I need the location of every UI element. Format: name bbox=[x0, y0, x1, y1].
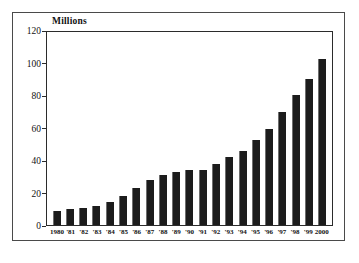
bar-column bbox=[156, 32, 169, 225]
bar-91 bbox=[199, 170, 207, 225]
bar-2000 bbox=[318, 59, 326, 225]
x-tick-label: '94 bbox=[236, 228, 249, 236]
bar-98 bbox=[292, 95, 300, 225]
bar-series bbox=[47, 32, 332, 225]
y-tick-label: 40 bbox=[32, 156, 47, 166]
x-tick-label: '97 bbox=[275, 228, 288, 236]
y-axis-units-label: Millions bbox=[52, 16, 87, 26]
x-tick-label: '84 bbox=[104, 228, 117, 236]
bar-96 bbox=[265, 129, 273, 226]
bar-column bbox=[103, 32, 116, 225]
bar-84 bbox=[106, 202, 114, 225]
bar-95 bbox=[252, 140, 260, 225]
bar-column bbox=[143, 32, 156, 225]
x-tick-label: '96 bbox=[262, 228, 275, 236]
x-tick-label: '85 bbox=[117, 228, 130, 236]
bar-1980 bbox=[53, 211, 61, 225]
x-tick-label: '89 bbox=[170, 228, 183, 236]
x-tick-label: '95 bbox=[249, 228, 262, 236]
bar-94 bbox=[239, 151, 247, 225]
bar-86 bbox=[132, 188, 140, 225]
y-tick-label: 100 bbox=[27, 59, 46, 69]
x-tick-label: '98 bbox=[288, 228, 301, 236]
bar-column bbox=[302, 32, 315, 225]
bar-83 bbox=[92, 206, 100, 225]
x-tick-label: '82 bbox=[77, 228, 90, 236]
bar-82 bbox=[79, 208, 87, 225]
y-tick-label: 120 bbox=[27, 26, 46, 36]
bar-column bbox=[223, 32, 236, 225]
x-tick-label: '87 bbox=[143, 228, 156, 236]
bar-column bbox=[196, 32, 209, 225]
bar-column bbox=[263, 32, 276, 225]
x-tick-label: 2000 bbox=[315, 228, 329, 236]
bar-92 bbox=[212, 164, 220, 225]
bar-column bbox=[130, 32, 143, 225]
bar-column bbox=[63, 32, 76, 225]
bar-column bbox=[249, 32, 262, 225]
bar-column bbox=[170, 32, 183, 225]
bar-93 bbox=[225, 157, 233, 225]
bar-85 bbox=[119, 196, 127, 225]
bar-column bbox=[77, 32, 90, 225]
y-tick-label: 80 bbox=[32, 91, 47, 101]
x-tick-label: '92 bbox=[209, 228, 222, 236]
bar-87 bbox=[146, 180, 154, 225]
x-tick-label: '93 bbox=[222, 228, 235, 236]
bar-column bbox=[116, 32, 129, 225]
x-tick-label: '86 bbox=[130, 228, 143, 236]
bar-column bbox=[209, 32, 222, 225]
y-tick-label: 20 bbox=[32, 189, 47, 199]
x-tick-label: '91 bbox=[196, 228, 209, 236]
bar-column bbox=[289, 32, 302, 225]
y-tick-label: 60 bbox=[32, 124, 47, 134]
x-axis-labels: 1980'81'82'83'84'85'86'87'88'89'90'91'92… bbox=[47, 228, 332, 236]
bar-97 bbox=[278, 112, 286, 225]
bar-89 bbox=[172, 172, 180, 225]
x-tick-label: '88 bbox=[156, 228, 169, 236]
bar-99 bbox=[305, 79, 313, 225]
bar-81 bbox=[66, 209, 74, 225]
x-tick-label: '99 bbox=[302, 228, 315, 236]
x-tick-label: 1980 bbox=[50, 228, 64, 236]
bar-column bbox=[276, 32, 289, 225]
chart-plot-wrapper: Millions 020406080100120 1980'81'82'83'8… bbox=[0, 0, 359, 263]
bar-column bbox=[50, 32, 63, 225]
x-tick-label: '83 bbox=[90, 228, 103, 236]
x-tick-label: '90 bbox=[183, 228, 196, 236]
x-tick-label: '81 bbox=[64, 228, 77, 236]
chart-figure: Millions 020406080100120 1980'81'82'83'8… bbox=[0, 0, 359, 263]
bar-90 bbox=[185, 170, 193, 225]
bar-column bbox=[316, 32, 329, 225]
bar-column bbox=[236, 32, 249, 225]
bar-column bbox=[90, 32, 103, 225]
y-tick-label: 0 bbox=[36, 221, 46, 231]
bar-column bbox=[183, 32, 196, 225]
bar-88 bbox=[159, 175, 167, 225]
